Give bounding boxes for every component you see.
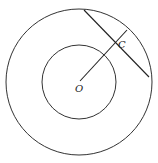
- chord-line: [84, 10, 149, 77]
- diagram-canvas: O C: [0, 0, 158, 163]
- inner-circle: [42, 45, 116, 119]
- label-center-o: O: [75, 83, 83, 94]
- label-point-c: C: [118, 39, 126, 50]
- radius-line: [80, 30, 127, 81]
- outer-circle: [6, 9, 152, 155]
